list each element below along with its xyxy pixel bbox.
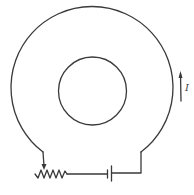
current-arrow-shaft [181,74,182,101]
outer-coil-loop [11,7,173,152]
circuit-diagram: I [0,0,194,195]
wire-battery-to-loop [112,152,142,173]
variable-resistor [35,170,67,178]
inner-circle [59,57,127,125]
rheostat-slider-arrow-icon [42,164,47,170]
current-arrow-up-icon [179,71,183,78]
current-label: I [184,82,190,93]
rheostat-lead [43,152,44,166]
